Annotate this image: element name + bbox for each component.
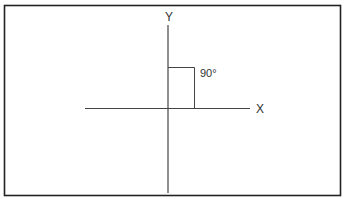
x-axis-label: X bbox=[256, 102, 264, 116]
diagram-frame bbox=[5, 6, 341, 196]
right-angle-marker bbox=[168, 68, 195, 109]
y-axis-label: Y bbox=[165, 10, 173, 24]
angle-label: 90° bbox=[200, 67, 217, 79]
diagram-canvas: Y X 90° bbox=[0, 0, 346, 199]
